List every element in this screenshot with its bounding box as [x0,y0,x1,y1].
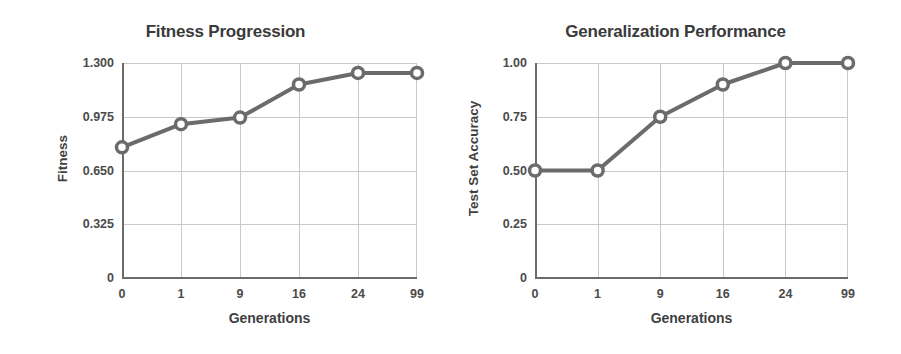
data-point-marker [592,165,603,176]
chart-panel-fitness-progression: Fitness Progression 00.3250.6500.9751.30… [0,0,451,354]
data-point-marker [717,79,728,90]
y-tick-label: 0 [520,271,527,285]
chart-panel-generalization-performance: Generalization Performance 00.250.500.75… [450,0,901,354]
chart-title: Generalization Performance [450,22,901,42]
x-axis-title: Generations [535,310,848,326]
y-tick-label: 1.300 [83,56,114,70]
x-tick-label: 16 [292,287,306,301]
x-tick-label: 24 [778,287,792,301]
x-tick-label: 16 [716,287,730,301]
x-tick-label: 0 [119,287,126,301]
data-series-layer [535,63,848,278]
figure-canvas: Fitness Progression 00.3250.6500.9751.30… [0,0,901,354]
x-tick-label: 0 [532,287,539,301]
x-tick-label: 9 [657,287,664,301]
data-point-marker [843,58,854,69]
data-point-marker [412,67,423,78]
x-axis-title: Generations [122,310,417,326]
data-point-marker [117,142,128,153]
x-tick-label: 99 [410,287,424,301]
data-point-marker [294,79,305,90]
data-point-marker [176,119,187,130]
y-tick-label: 0.50 [503,164,527,178]
data-point-marker [530,165,541,176]
data-series-layer [122,63,417,278]
y-tick-label: 1.00 [503,56,527,70]
y-tick-label: 0.75 [503,110,527,124]
plot-area [535,63,848,278]
data-point-marker [235,112,246,123]
y-axis-title: Test Set Accuracy [466,101,481,217]
y-axis-title: Fitness [55,135,70,182]
y-tick-label: 0.25 [503,217,527,231]
x-tick-label: 9 [237,287,244,301]
data-point-marker [780,58,791,69]
y-tick-label: 0.325 [83,217,114,231]
y-tick-label: 0 [107,271,114,285]
x-tick-label: 99 [841,287,855,301]
data-point-marker [655,111,666,122]
chart-title: Fitness Progression [0,22,451,42]
y-tick-label: 0.650 [83,164,114,178]
x-tick-label: 1 [594,287,601,301]
data-point-marker [353,67,364,78]
plot-area [122,63,417,278]
y-tick-label: 0.975 [83,110,114,124]
series-line [122,73,417,147]
series-line [535,63,848,171]
x-tick-label: 24 [351,287,365,301]
x-tick-label: 1 [178,287,185,301]
